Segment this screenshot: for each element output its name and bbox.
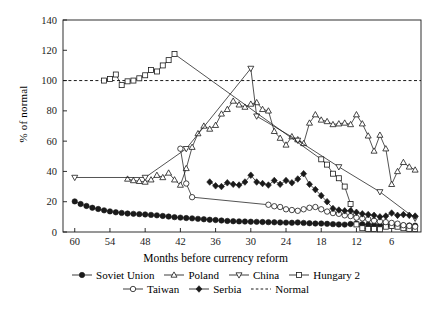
data-point (271, 177, 277, 184)
data-point (377, 132, 383, 137)
data-point (125, 176, 131, 181)
data-point (142, 175, 148, 180)
data-point (353, 209, 359, 216)
data-point (289, 220, 294, 225)
data-point (377, 227, 382, 232)
data-point (289, 179, 295, 186)
data-point (289, 207, 294, 212)
data-point (365, 133, 371, 138)
y-tick-label: 40 (47, 166, 58, 177)
data-point (389, 210, 395, 217)
data-point (359, 121, 365, 126)
legend-item-normal[interactable]: Normal (250, 282, 309, 296)
data-point (400, 159, 406, 164)
chart-legend: Soviet UnionPolandChinaHungary 2 TaiwanS… (0, 268, 431, 296)
data-point (236, 273, 242, 278)
legend-item-taiwan[interactable]: Taiwan (122, 282, 179, 296)
legend-label: Serbia (212, 282, 241, 296)
data-point (154, 172, 160, 177)
data-point (348, 221, 353, 226)
data-point (254, 219, 259, 224)
data-point (224, 106, 230, 111)
data-point (301, 220, 306, 225)
data-point (218, 183, 224, 190)
data-point (342, 184, 347, 189)
legend-item-hungary-2[interactable]: Hungary 2 (288, 268, 360, 282)
data-point (395, 212, 401, 219)
data-point (283, 220, 288, 225)
data-point (406, 212, 412, 219)
data-point (79, 272, 84, 277)
data-point (178, 215, 183, 220)
data-point (277, 220, 282, 225)
series-poland (125, 98, 419, 187)
data-point (148, 177, 154, 182)
x-tick-label: 42 (175, 236, 186, 247)
data-point (184, 215, 189, 220)
data-point (166, 214, 171, 219)
data-point (230, 98, 236, 103)
data-point (236, 102, 242, 107)
data-point (225, 218, 230, 223)
data-point (407, 223, 412, 228)
legend-item-china[interactable]: China (228, 268, 279, 282)
axes-frame (63, 20, 421, 232)
data-point (189, 194, 194, 199)
data-point (195, 216, 200, 221)
data-point (189, 144, 195, 149)
data-point (113, 72, 118, 77)
data-point (265, 182, 271, 189)
data-point (325, 162, 330, 167)
data-series-group (72, 52, 418, 232)
data-point (236, 219, 241, 224)
legend-row-2: TaiwanSerbiaNormal (0, 282, 431, 296)
data-point (72, 199, 77, 204)
data-point (313, 204, 318, 209)
data-point (137, 211, 142, 216)
data-point (172, 214, 177, 219)
data-point (366, 226, 371, 231)
legend-label: Hungary 2 (312, 268, 360, 282)
data-point (295, 220, 300, 225)
open-triangle-up-icon (163, 269, 185, 281)
data-point (330, 171, 335, 176)
legend-item-poland[interactable]: Poland (163, 268, 219, 282)
data-point (342, 120, 348, 125)
data-point (324, 209, 329, 214)
data-point (297, 273, 302, 278)
open-square-icon (288, 269, 310, 281)
y-tick-label: 140 (41, 15, 57, 26)
y-tick-label: 20 (47, 196, 58, 207)
x-tick-label: 6 (389, 236, 394, 247)
data-point (148, 212, 153, 217)
data-point (236, 182, 242, 189)
data-point (107, 77, 112, 82)
x-axis-label: Months before currency reform (0, 252, 431, 264)
data-point (107, 209, 112, 214)
data-point (301, 207, 306, 212)
data-point (412, 167, 418, 172)
data-point (283, 207, 288, 212)
data-point (336, 222, 341, 227)
y-tick-label: 100 (41, 75, 57, 86)
data-point (178, 146, 183, 151)
data-point (224, 179, 230, 186)
data-point (102, 78, 107, 83)
data-point (189, 216, 194, 221)
data-point (353, 112, 359, 117)
data-point (149, 67, 154, 72)
legend-item-serbia[interactable]: Serbia (188, 282, 241, 296)
data-point (371, 212, 377, 219)
data-point (319, 157, 324, 162)
y-tick-label: 80 (47, 105, 58, 116)
x-tick-label: 12 (351, 236, 362, 247)
data-point (306, 120, 312, 125)
data-point (183, 147, 189, 152)
data-point (389, 181, 395, 186)
data-point (219, 218, 224, 223)
data-point (348, 201, 353, 206)
series-china (72, 66, 418, 221)
x-tick-label: 18 (316, 236, 327, 247)
legend-item-soviet-union[interactable]: Soviet Union (71, 268, 154, 282)
x-tick-label: 60 (69, 236, 80, 247)
